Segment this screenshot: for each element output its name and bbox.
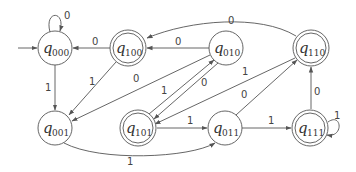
edge-label: 1 [268, 115, 274, 126]
state-diagram: 0 1 0 1 0 0 0 1 1 0 1 0 1 0 1 1 q 000 [0, 0, 356, 172]
svg-text:101: 101 [135, 128, 152, 138]
edge-label: 0 [201, 77, 207, 88]
edge-label: 0 [64, 10, 70, 21]
node-q000: q 000 [38, 31, 72, 65]
edge-label: 1 [242, 66, 248, 77]
edge-q000-q000 [49, 15, 61, 32]
edge-label: 0 [133, 73, 139, 84]
edge-label: 0 [175, 36, 181, 47]
edge-q111-q111 [327, 120, 339, 136]
svg-text:111: 111 [307, 128, 324, 138]
node-q001: q 001 [38, 111, 72, 145]
edge-label: 1 [187, 115, 193, 126]
node-q111: q 111 [292, 110, 328, 146]
node-q011: q 011 [208, 111, 242, 145]
node-q101: q 101 [120, 110, 156, 146]
edge-label: 0 [92, 36, 98, 47]
svg-text:011: 011 [222, 128, 239, 138]
edge-label: 1 [334, 110, 340, 121]
edge-label: 0 [241, 89, 247, 100]
edge-label: 0 [228, 15, 234, 26]
edge-label: 0 [314, 86, 320, 97]
edge-q100-q001 [69, 62, 116, 115]
diagram-svg: 0 1 0 1 0 0 0 1 1 0 1 0 1 0 1 1 q 000 [0, 0, 356, 172]
svg-text:010: 010 [223, 48, 240, 58]
svg-text:001: 001 [52, 128, 69, 138]
svg-text:000: 000 [52, 48, 69, 58]
edge-label: 1 [89, 76, 95, 87]
edge-label: 1 [127, 156, 133, 167]
edge-label: 1 [161, 85, 167, 96]
svg-text:110: 110 [308, 48, 325, 58]
svg-text:100: 100 [125, 48, 142, 58]
node-q110: q 110 [293, 30, 329, 66]
node-q100: q 100 [110, 30, 146, 66]
node-q010: q 010 [209, 31, 243, 65]
edge-label: 1 [45, 82, 51, 93]
